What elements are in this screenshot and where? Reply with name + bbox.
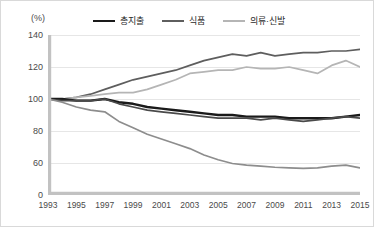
y-axis-tick-label: 80 bbox=[17, 127, 43, 136]
x-axis-tick-label: 1999 bbox=[124, 201, 143, 210]
y-axis-tick-label: 60 bbox=[17, 159, 43, 168]
y-axis-labels: 14012010080600 bbox=[15, 35, 43, 195]
x-axis-tick-label: 2011 bbox=[294, 201, 312, 210]
x-axis-labels: 1993199519971999200120032005200720092011… bbox=[48, 201, 360, 215]
x-axis-tick-label: 2013 bbox=[322, 201, 341, 210]
x-axis-tick-label: 2007 bbox=[237, 201, 256, 210]
x-axis-tick-label: 1995 bbox=[67, 201, 86, 210]
legend-item-1[interactable]: 식품 bbox=[162, 17, 205, 26]
series-line-2 bbox=[48, 99, 360, 118]
legend-item-label: 의류·신발 bbox=[250, 17, 285, 26]
plot-area bbox=[48, 35, 360, 195]
y-axis-tick-label: 100 bbox=[17, 95, 43, 104]
x-axis-tick-label: 1997 bbox=[95, 201, 114, 210]
legend-line-swatch-icon bbox=[93, 20, 115, 22]
x-axis-tick-label: 2009 bbox=[265, 201, 284, 210]
series-line-4 bbox=[48, 99, 360, 168]
legend-item-2[interactable]: 의류·신발 bbox=[223, 17, 285, 26]
y-axis-tick-label: 140 bbox=[17, 31, 43, 40]
x-axis-tick-label: 2003 bbox=[180, 201, 199, 210]
legend-item-0[interactable]: 총지출 bbox=[93, 17, 144, 26]
chart-container: (%) 총지출식품의류·신발 14012010080600 1993199519… bbox=[0, 0, 374, 227]
legend-item-label: 총지출 bbox=[120, 17, 144, 26]
chart-legend: 총지출식품의류·신발 bbox=[93, 13, 285, 29]
legend-line-swatch-icon bbox=[223, 20, 245, 22]
legend-line-swatch-icon bbox=[162, 20, 184, 22]
x-axis-tick-label: 1993 bbox=[39, 201, 58, 210]
x-axis-tick-label: 2005 bbox=[209, 201, 228, 210]
y-axis-tick-label: 0 bbox=[17, 191, 43, 200]
y-axis-unit-label: (%) bbox=[31, 14, 45, 23]
x-axis-tick-label: 2015 bbox=[351, 201, 370, 210]
line-chart-svg bbox=[48, 35, 360, 195]
legend-item-label: 식품 bbox=[189, 17, 205, 26]
series-line-0 bbox=[48, 49, 360, 99]
x-axis-tick-label: 2001 bbox=[152, 201, 171, 210]
y-axis-tick-label: 120 bbox=[17, 63, 43, 72]
